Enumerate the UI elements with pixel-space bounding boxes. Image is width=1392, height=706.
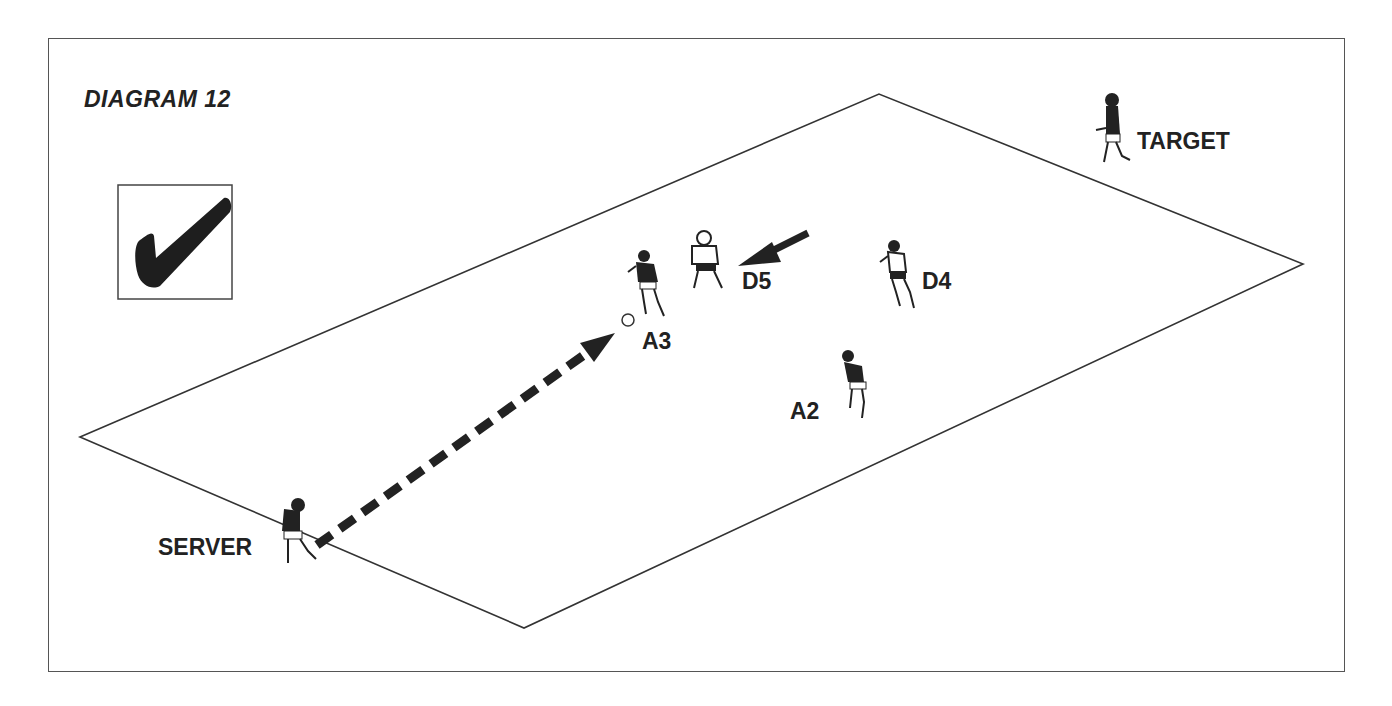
label-a3: A3 — [642, 328, 671, 355]
label-server: SERVER — [158, 534, 252, 561]
player-icon-d5 — [692, 231, 722, 288]
player-icon-d4 — [880, 240, 914, 308]
label-d4: D4 — [922, 268, 951, 295]
player-icon-target — [1096, 93, 1130, 162]
label-target: TARGET — [1137, 128, 1230, 155]
movement-arrow — [738, 233, 808, 266]
label-a2: A2 — [790, 398, 819, 425]
checkmark-icon — [118, 185, 232, 299]
pass-arrow — [317, 333, 615, 545]
label-d5: D5 — [742, 268, 771, 295]
pitch-diagram — [0, 0, 1392, 706]
player-icon-server — [282, 498, 316, 563]
player-icon-a2 — [842, 350, 866, 418]
ball-icon — [622, 314, 634, 326]
pitch-outline — [80, 94, 1303, 628]
player-icon-a3 — [628, 250, 664, 316]
